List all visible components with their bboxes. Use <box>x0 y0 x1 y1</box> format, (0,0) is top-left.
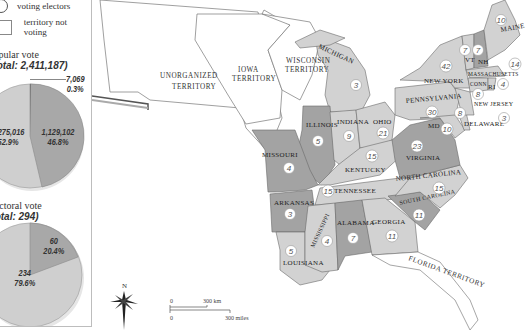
legend-panel: voting electors territory not voting Pop… <box>0 0 92 327</box>
chart-title: Popular vote <box>0 49 68 60</box>
svg-text:30: 30 <box>428 108 437 117</box>
electors-badge-illinois: 5 <box>313 136 324 147</box>
state-label: OHIO <box>373 118 392 126</box>
electors-badge-new-york: 42 <box>440 60 452 72</box>
electors-badge-nh: 7 <box>473 45 484 56</box>
electors-badge-delaware: 3 <box>499 113 510 124</box>
territory-label: IOWA <box>238 66 259 74</box>
territory-label: UNORGANIZED <box>160 72 218 80</box>
svg-text:7: 7 <box>463 46 468 55</box>
electors-badge-louisiana: 5 <box>286 246 297 257</box>
circle-icon <box>0 0 8 13</box>
leader-line <box>30 79 66 80</box>
electors-badge-kentucky: 15 <box>366 150 378 162</box>
svg-text:300 miles: 300 miles <box>225 315 249 321</box>
electors-badge-ohio: 21 <box>377 127 389 139</box>
svg-text:7: 7 <box>476 46 481 55</box>
svg-text:7: 7 <box>351 234 356 243</box>
electors-badge-michigan: 3 <box>351 80 362 91</box>
electors-badge-arkansas: 3 <box>285 209 296 220</box>
electors-badge-ri: 4 <box>498 79 509 90</box>
legend-label: voting electors <box>17 1 70 11</box>
electors-badge-massachusetts: 14 <box>509 58 521 70</box>
pie-label-majority: 1,275,016 52.9% <box>0 127 24 147</box>
box-icon <box>0 20 12 35</box>
svg-text:8: 8 <box>458 109 463 118</box>
state-label: TENNESSEE <box>334 187 376 195</box>
state-label: NEW JERSEY <box>474 101 514 107</box>
state-label: MD <box>428 122 440 130</box>
territory-label: TERRITORY <box>172 83 217 91</box>
svg-text:3: 3 <box>502 114 507 123</box>
chart-title: Electoral vote <box>0 200 42 211</box>
state-label: CONN <box>470 81 487 87</box>
state-label: KENTUCKY <box>345 166 386 174</box>
svg-text:0: 0 <box>170 315 173 321</box>
electors-badge-south-carolina: 11 <box>413 209 425 221</box>
state-label: GEORGIA <box>372 218 406 226</box>
compass-rose-icon: N <box>110 282 138 330</box>
electors-badge-missouri: 4 <box>284 163 295 174</box>
territory-label: TERRITORY <box>285 66 330 74</box>
legend-label: territory not voting <box>24 17 91 37</box>
state-label: LOUISIANA <box>283 259 324 267</box>
state-label: VT <box>465 56 475 64</box>
territory-label: WISCONSIN <box>286 57 331 65</box>
svg-text:4: 4 <box>325 237 330 246</box>
svg-text:14: 14 <box>511 60 520 69</box>
scale-bar: 0 300 km 0 300 miles <box>170 298 249 321</box>
electoral-vote-title: Electoral vote (total: 294) <box>0 200 42 222</box>
svg-text:9: 9 <box>347 132 352 141</box>
svg-text:4: 4 <box>501 80 506 89</box>
state-label: VIRGINIA <box>406 154 440 162</box>
svg-text:5: 5 <box>289 247 294 256</box>
pie-label-minority: 1,129,102 46.8% <box>42 127 75 147</box>
svg-text:23: 23 <box>412 142 422 151</box>
state-label: NH <box>478 58 489 66</box>
svg-text:8: 8 <box>476 90 481 99</box>
svg-text:0: 0 <box>170 298 173 304</box>
state-label: INDIANA <box>337 118 369 126</box>
electors-badge-north-carolina: 15 <box>433 182 445 194</box>
state-label: DELAWARE <box>464 120 504 128</box>
state-label: ARKANSAS <box>274 199 314 207</box>
electors-badge-georgia: 11 <box>386 230 398 242</box>
state-label: NEW YORK <box>424 77 464 85</box>
election-map: UNORGANIZED TERRITORY IOWA TERRITORY WIS… <box>92 0 528 332</box>
electors-badge-md: 10 <box>441 123 453 135</box>
svg-text:10: 10 <box>497 16 506 25</box>
legend-item-voting-electors: voting electors <box>0 0 70 13</box>
state-label: MASSACHUSETTS <box>468 71 519 77</box>
electors-badge-indiana: 9 <box>344 131 355 142</box>
chart-total: (total: 2,411,187) <box>0 60 68 71</box>
electors-badge-maine: 10 <box>496 15 507 26</box>
electors-badge-new-jersey: 8 <box>455 108 466 119</box>
svg-text:300 km: 300 km <box>203 298 222 304</box>
state-label: MISSOURI <box>262 151 298 159</box>
electors-badge-mississippi: 4 <box>322 236 333 247</box>
pie-label-other: 7,069 0.3% <box>66 74 84 94</box>
electors-badge-tennessee: 15 <box>322 185 334 197</box>
state-label: RI <box>488 83 496 91</box>
state-label: ALABAMA <box>337 219 375 227</box>
svg-text:15: 15 <box>435 184 444 193</box>
pie-label-minority: 60 20.4% <box>43 236 64 256</box>
svg-text:10: 10 <box>443 125 452 134</box>
svg-text:5: 5 <box>316 137 321 146</box>
svg-text:11: 11 <box>388 232 396 241</box>
territory-label: TERRITORY <box>232 75 277 83</box>
popular-vote-title: Popular vote (total: 2,411,187) <box>0 49 68 71</box>
svg-text:21: 21 <box>378 129 388 138</box>
electors-badge-vt: 7 <box>460 45 471 56</box>
svg-text:N: N <box>122 282 127 290</box>
svg-text:42: 42 <box>442 62 451 71</box>
svg-text:3: 3 <box>354 81 359 90</box>
svg-text:11: 11 <box>415 211 423 220</box>
electors-badge-conn: 8 <box>473 89 484 100</box>
legend-item-territory: territory not voting <box>0 17 91 37</box>
electors-badge-alabama: 7 <box>348 233 359 244</box>
pie-label-majority: 234 79.6% <box>14 268 35 288</box>
svg-text:15: 15 <box>324 187 333 196</box>
electors-badge-virginia: 23 <box>411 140 423 152</box>
svg-text:3: 3 <box>288 210 293 219</box>
